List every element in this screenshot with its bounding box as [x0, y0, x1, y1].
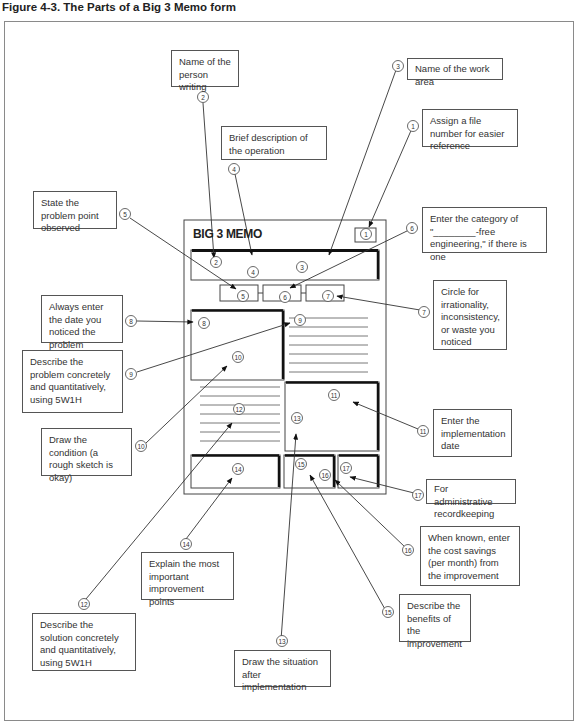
svg-text:4: 4	[232, 166, 236, 173]
marker-14-outer: 14	[181, 539, 192, 550]
svg-text:8: 8	[129, 318, 133, 325]
callout-10-draw-condition: Draw the condition (a rough sketch is ok…	[41, 428, 132, 476]
callout-11-implementation-date: Enter the implementation date	[433, 409, 512, 457]
svg-text:12: 12	[80, 601, 88, 608]
svg-text:3: 3	[396, 63, 400, 70]
svg-text:11: 11	[331, 392, 338, 399]
callout-13-draw-after: Draw the situation after implementation	[234, 650, 331, 687]
svg-text:15: 15	[384, 609, 392, 616]
marker-15-outer: 15	[383, 607, 394, 618]
svg-text:10: 10	[137, 443, 145, 450]
svg-text:13: 13	[293, 415, 301, 422]
callout-5-problem-point: State the problem point observed	[33, 191, 117, 229]
svg-text:16: 16	[404, 547, 412, 554]
svg-text:17: 17	[414, 492, 422, 499]
marker-9-outer: 9	[126, 369, 137, 380]
callout-16-cost-savings: When known, enter the cost savings (per …	[420, 526, 520, 586]
svg-text:7: 7	[422, 309, 426, 316]
marker-5-outer: 5	[120, 209, 131, 220]
callout-12-describe-solution: Describe the solution concretely and qua…	[32, 613, 136, 671]
svg-text:9: 9	[298, 317, 302, 324]
svg-text:5: 5	[241, 293, 245, 300]
callout-15-benefits: Describe the benefits of the improvement	[399, 594, 471, 642]
marker-12-outer: 12	[79, 599, 90, 610]
marker-1-outer: 1	[408, 121, 419, 132]
callout-14-improvement-points: Explain the most important improvement p…	[141, 552, 234, 600]
marker-6-outer: 6	[407, 223, 418, 234]
svg-text:5: 5	[123, 211, 127, 218]
svg-text:2: 2	[201, 94, 205, 101]
svg-text:14: 14	[234, 466, 242, 473]
svg-text:2: 2	[214, 259, 218, 266]
callout-17-admin-records: For administrative recordkeeping	[426, 479, 516, 504]
marker-17-outer: 17	[413, 490, 424, 501]
svg-text:9: 9	[129, 371, 133, 378]
svg-text:17: 17	[342, 465, 350, 472]
callout-7-circle-waste: Circle for irrationality, inconsistency,…	[433, 280, 507, 350]
svg-text:13: 13	[278, 638, 286, 645]
marker-11-outer: 11	[418, 426, 429, 437]
marker-10-outer: 10	[136, 441, 147, 452]
callout-4-operation: Brief description of the operation	[221, 126, 327, 160]
callout-2-author-name: Name of the person writing	[171, 50, 239, 87]
svg-text:14: 14	[182, 541, 190, 548]
svg-text:16: 16	[321, 472, 329, 479]
svg-text:8: 8	[202, 320, 206, 327]
callout-3-work-area: Name of the work area	[407, 58, 503, 80]
svg-text:10: 10	[234, 354, 242, 361]
svg-text:6: 6	[283, 294, 287, 301]
callout-1-file-number: Assign a file number for easier referenc…	[422, 109, 518, 147]
svg-text:15: 15	[297, 461, 305, 468]
svg-text:6: 6	[410, 225, 414, 232]
marker-7-outer: 7	[419, 307, 430, 318]
memo-form-title: BIG 3 MEMO	[193, 227, 262, 241]
svg-text:3: 3	[300, 264, 304, 271]
marker-13-outer: 13	[277, 636, 288, 647]
svg-text:11: 11	[420, 428, 427, 435]
callout-6-category: Enter the category of "________-free eng…	[422, 207, 547, 253]
marker-16-outer: 16	[403, 545, 414, 556]
marker-4-outer: 4	[229, 164, 240, 175]
callout-8-date-noticed: Always enter the date you noticed the pr…	[41, 295, 123, 343]
marker-8-outer: 8	[126, 316, 137, 327]
svg-text:4: 4	[251, 269, 255, 276]
svg-text:1: 1	[411, 123, 415, 130]
marker-3-outer: 3	[393, 61, 404, 72]
svg-text:12: 12	[235, 406, 243, 413]
svg-text:7: 7	[326, 293, 330, 300]
svg-text:1: 1	[364, 231, 368, 238]
callout-9-describe-problem: Describe the problem concretely and quan…	[22, 350, 123, 413]
